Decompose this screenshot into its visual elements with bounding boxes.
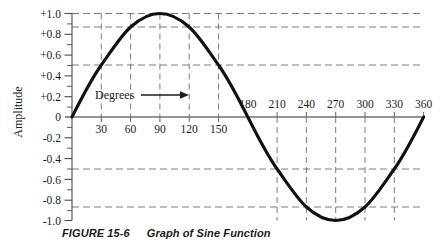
x-axis-tick-labels-left: 30 60 90 120 150	[96, 123, 228, 135]
x-tick-label: 240	[298, 98, 316, 110]
x-tick-label: 90	[154, 123, 166, 135]
x-tick-label: 120	[181, 123, 199, 135]
x-axis-ticks-right	[277, 112, 424, 117]
x-axis-ticks-left	[101, 117, 218, 122]
x-axis-tick-labels-right: 180 210 240 270 300 330 360	[239, 98, 432, 110]
y-tick-label: -0.6	[43, 174, 61, 186]
x-tick-label: 300	[356, 98, 374, 110]
figure-caption-label: FIGURE 15-6	[62, 227, 130, 239]
y-tick-label: 0	[55, 111, 61, 123]
y-tick-label: +0.4	[40, 70, 61, 82]
y-tick-label: +1.0	[40, 8, 61, 20]
horizontal-gridlines	[72, 14, 424, 208]
y-tick-label: +0.2	[40, 91, 61, 103]
figure-caption-title: Graph of Sine Function	[147, 227, 271, 239]
x-tick-label: 330	[386, 98, 404, 110]
x-tick-label: 360	[415, 98, 433, 110]
figure-container: +1.0 +0.8 +0.6 +0.4 +0.2 0 -0.2 -0.4 -0.…	[0, 0, 447, 250]
degrees-annotation-label: Degrees	[95, 88, 135, 102]
y-tick-label: -0.2	[43, 132, 61, 144]
y-tick-label: -0.4	[43, 153, 61, 165]
y-axis-title: Amplitude	[11, 86, 25, 137]
x-tick-label: 210	[268, 98, 286, 110]
degrees-arrow-head	[180, 91, 189, 99]
degrees-annotation: Degrees	[95, 88, 189, 102]
x-tick-label: 180	[239, 98, 257, 110]
y-axis-tick-labels: +1.0 +0.8 +0.6 +0.4 +0.2 0 -0.2 -0.4 -0.…	[40, 8, 61, 227]
y-tick-label: -0.8	[43, 194, 61, 206]
y-tick-label: +0.6	[40, 49, 61, 61]
y-tick-label: -1.0	[43, 215, 61, 227]
figure-caption: FIGURE 15-6Graph of Sine Function	[62, 227, 271, 239]
x-tick-label: 60	[125, 123, 137, 135]
sine-function-chart: +1.0 +0.8 +0.6 +0.4 +0.2 0 -0.2 -0.4 -0.…	[0, 0, 447, 250]
y-tick-label: +0.8	[40, 28, 61, 40]
x-tick-label: 30	[96, 123, 108, 135]
x-tick-label: 270	[327, 98, 345, 110]
x-tick-label: 150	[210, 123, 228, 135]
